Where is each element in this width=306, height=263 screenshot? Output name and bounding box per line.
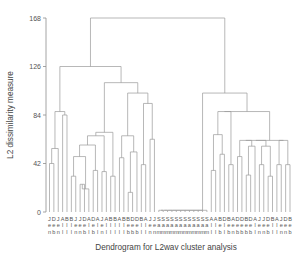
dendrogram-link — [141, 165, 145, 212]
leaf-label-char: n — [149, 229, 152, 235]
leaf-label-char: D — [91, 216, 95, 222]
leaf-label-char: l — [106, 222, 107, 228]
leaf-label-char: b — [267, 229, 270, 235]
dendrogram-link — [71, 176, 75, 212]
leaf-label-char: e — [227, 222, 230, 228]
leaf-label-char: l — [123, 229, 124, 235]
dendrogram-link — [104, 83, 137, 133]
dendrogram-link — [213, 135, 222, 171]
leaf-label-char: J — [280, 216, 283, 222]
leaf-label-char: e — [74, 222, 77, 228]
dendrogram-link — [63, 115, 67, 212]
leaf-label-char: n — [79, 229, 82, 235]
leaf-label-char: D — [284, 216, 288, 222]
leaf-label-char: l — [97, 229, 98, 235]
leaf-label-char: A — [96, 216, 100, 222]
y-tick-label: 42 — [33, 160, 41, 167]
leaf-label-char: b — [240, 229, 243, 235]
y-axis: 16812684420 — [29, 15, 46, 216]
leaf-label-char: b — [249, 229, 252, 235]
leaf-label-char: J — [153, 216, 156, 222]
leaf-label-char: l — [224, 229, 225, 235]
leaf-label-char: J — [74, 216, 77, 222]
leaf-label-char: l — [123, 222, 124, 228]
leaf-label-char: n — [258, 229, 261, 235]
y-tick-label: 126 — [29, 63, 41, 70]
leaf-label-char: e — [236, 222, 239, 228]
leaf-label-char: l — [211, 229, 212, 235]
dendrogram-link — [93, 170, 97, 212]
leaf-label-char: b — [236, 229, 239, 235]
leaf-label-char: n — [280, 229, 283, 235]
dendrogram-link — [80, 145, 96, 170]
leaf-label-char: D — [222, 216, 226, 222]
leaf-label-char: e — [262, 222, 265, 228]
leaf-label-char: e — [127, 222, 130, 228]
leaf-label-char: J — [79, 216, 82, 222]
leaf-label-char: B — [288, 216, 292, 222]
dendrogram-link — [248, 146, 255, 212]
dendrogram-link — [50, 164, 54, 213]
y-axis-title: L2 dissimilarity measure — [6, 71, 15, 159]
leaf-label-char: l — [254, 229, 255, 235]
leaf-label-char: J — [48, 216, 51, 222]
leaf-label-char: b — [135, 229, 138, 235]
leaf-label-char: J — [262, 216, 265, 222]
dendrogram-link — [268, 176, 272, 212]
leaf-label-char: b — [83, 229, 86, 235]
leaf-label-char: a — [205, 222, 209, 228]
leaf-label-char: n — [232, 229, 235, 235]
dendrogram-link — [102, 172, 106, 212]
dendrogram-link — [52, 148, 59, 212]
dendrogram-link — [246, 175, 250, 212]
leaf-label-char: J — [57, 216, 60, 222]
leaf-label-char: l — [119, 229, 120, 235]
x-axis-title: Dendrogram for L2wav cluster analysis — [95, 243, 237, 252]
dendrogram-links — [50, 18, 291, 212]
leaf-label-char: l — [141, 222, 142, 228]
leaf-label-char: e — [258, 222, 261, 228]
leaf-label-char: e — [100, 222, 103, 228]
leaf-label-char: l — [97, 222, 98, 228]
leaf-label-char: e — [249, 222, 252, 228]
dendrogram-link — [203, 93, 247, 210]
dendrogram-link — [220, 154, 224, 212]
dendrogram-link — [119, 158, 123, 212]
leaf-label-char: l — [119, 222, 120, 228]
leaf-label-char: b — [218, 229, 221, 235]
leaf-label-char: A — [275, 216, 279, 222]
leaf-label-char: D — [240, 216, 244, 222]
dendrogram-link — [262, 146, 271, 176]
leaf-label-char: b — [52, 229, 55, 235]
leaf-label-char: l — [66, 229, 67, 235]
leaf-label-char: l — [145, 229, 146, 235]
leaf-labels: JDJABBJJDADAJABBABBDDBAJJSSSSSSSSSSSSAAB… — [48, 216, 292, 235]
leaf-label-char: n — [57, 229, 60, 235]
leaf-label-char: b — [227, 229, 230, 235]
leaf-label-char: e — [135, 222, 138, 228]
dendrogram-link — [144, 103, 153, 164]
leaf-label-char: D — [52, 216, 56, 222]
leaf-label-char: e — [48, 222, 51, 228]
leaf-label-char: l — [71, 222, 72, 228]
leaf-label-char: J — [258, 216, 261, 222]
y-tick-label: 0 — [37, 209, 41, 216]
leaf-label-char: A — [253, 216, 257, 222]
leaf-label-char: l — [272, 229, 273, 235]
leaf-label-char: l — [141, 229, 142, 235]
dendrogram-link — [238, 157, 242, 212]
leaf-label-char: l — [215, 229, 216, 235]
leaf-label-char: b — [92, 229, 95, 235]
leaf-label-char: e — [131, 222, 134, 228]
leaf-label-char: e — [240, 222, 243, 228]
leaf-label-char: l — [224, 222, 225, 228]
leaf-label-char: l — [114, 222, 115, 228]
leaf-label-char: D — [135, 216, 139, 222]
leaf-label-char: e — [288, 222, 291, 228]
dendrogram-link — [246, 140, 266, 146]
leaf-label-char: l — [62, 222, 63, 228]
dendrogram-link — [286, 165, 290, 212]
leaf-label-char: l — [145, 222, 146, 228]
leaf-label-char: l — [62, 229, 63, 235]
leaf-label-char: l — [272, 222, 273, 228]
